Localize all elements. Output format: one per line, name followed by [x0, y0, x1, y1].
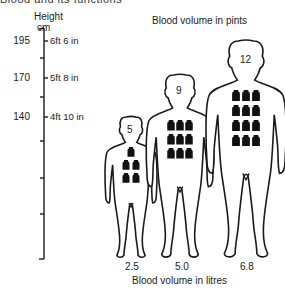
height-axis: [39, 28, 48, 259]
bottom-title: Blood volume in litres: [132, 275, 227, 286]
litres-large: 6.8: [240, 261, 254, 272]
diagram-canvas: [0, 0, 285, 298]
pints-large: 12: [240, 54, 251, 65]
pints-small: 5: [127, 124, 133, 135]
litres-small: 2.5: [125, 261, 139, 272]
figure-large: [206, 40, 285, 257]
litres-medium: 5.0: [175, 261, 189, 272]
bottles-medium: [167, 120, 193, 159]
pints-medium: 9: [176, 85, 182, 96]
